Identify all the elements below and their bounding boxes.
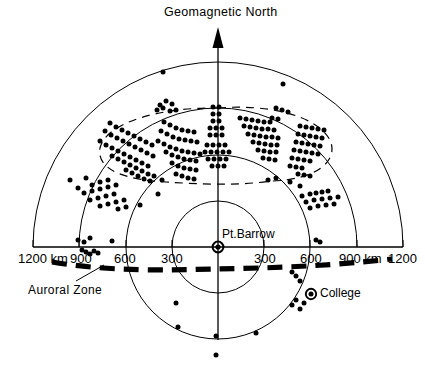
echo-point	[210, 164, 215, 169]
echo-point	[132, 134, 137, 139]
echo-point	[268, 150, 273, 155]
echo-point	[215, 150, 220, 155]
axis-tick-label-left: 1200 km	[18, 251, 68, 266]
echo-point	[116, 207, 121, 212]
echo-point	[171, 135, 176, 140]
echo-point	[332, 202, 337, 207]
echo-point	[122, 160, 127, 165]
echo-point	[292, 148, 297, 153]
echo-point	[274, 150, 279, 155]
echo-point	[120, 128, 125, 133]
echo-point	[142, 177, 147, 182]
echo-point	[170, 153, 175, 158]
echo-point	[266, 127, 271, 132]
echo-point	[256, 148, 261, 153]
echo-point	[275, 143, 280, 148]
echo-point	[312, 143, 317, 148]
echo-point	[298, 124, 303, 129]
echo-point	[294, 298, 299, 303]
echo-point	[251, 140, 256, 145]
echo-point	[320, 136, 325, 141]
echo-point	[182, 166, 187, 171]
echo-point	[121, 139, 126, 144]
echo-point	[88, 198, 93, 203]
station-marker-college	[306, 289, 316, 299]
echo-point	[156, 139, 161, 144]
echo-point	[138, 137, 143, 142]
echo-point	[106, 178, 111, 183]
echo-point	[188, 167, 193, 172]
echo-point	[318, 240, 323, 245]
echo-point	[298, 149, 303, 154]
echo-point	[220, 133, 225, 138]
echo-point	[216, 164, 221, 169]
echo-point	[294, 140, 299, 145]
echo-point	[159, 129, 164, 134]
echo-point	[211, 105, 216, 110]
echo-point	[276, 136, 281, 141]
echo-point	[176, 325, 181, 330]
echo-point	[290, 270, 295, 275]
echo-point	[112, 192, 117, 197]
echo-point	[189, 139, 194, 144]
echo-point	[192, 130, 197, 135]
echo-point	[144, 140, 149, 145]
echo-points-group	[68, 70, 341, 358]
echo-point	[314, 135, 319, 140]
echo-point	[103, 129, 108, 134]
echo-point	[308, 159, 313, 164]
axis-tick-label-right: 300	[254, 251, 276, 266]
echo-point	[308, 206, 313, 211]
echo-point	[170, 161, 175, 166]
chart-title: Geomagnetic North	[164, 5, 278, 19]
echo-point	[324, 203, 329, 208]
echo-point	[134, 158, 139, 163]
echo-point	[124, 168, 129, 173]
echo-point	[122, 152, 127, 157]
echo-point	[310, 151, 315, 156]
echo-point	[98, 139, 103, 144]
echo-point	[269, 143, 274, 148]
echo-point	[306, 142, 311, 147]
echo-point	[110, 239, 115, 244]
echo-point	[176, 155, 181, 160]
echo-point	[122, 198, 127, 203]
echo-point	[164, 99, 169, 104]
echo-point	[316, 127, 321, 132]
echo-point	[174, 172, 179, 177]
echo-point	[168, 123, 173, 128]
echo-point	[162, 142, 167, 147]
echo-point	[290, 303, 295, 308]
echo-point	[140, 169, 145, 174]
echo-point	[110, 154, 115, 159]
echo-point	[98, 180, 103, 185]
echo-point	[258, 134, 263, 139]
echo-point	[257, 141, 262, 146]
echo-point	[76, 238, 81, 243]
echo-point	[276, 117, 281, 122]
echo-point	[246, 132, 251, 137]
echo-point	[174, 126, 179, 131]
echo-point	[76, 186, 81, 191]
echo-point	[238, 116, 243, 121]
echo-point	[198, 152, 203, 157]
echo-point	[318, 144, 323, 149]
auroral-zone-label: Auroral Zone	[28, 283, 102, 297]
echo-point	[188, 158, 193, 163]
axis-tick-label-right: 900 km	[339, 251, 382, 266]
echo-point	[203, 150, 208, 155]
echo-point	[254, 331, 259, 336]
echo-point	[223, 143, 228, 148]
echo-point	[140, 161, 145, 166]
echo-point	[274, 176, 279, 181]
echo-point	[320, 197, 325, 202]
echo-point	[298, 184, 303, 189]
echo-point	[266, 178, 271, 183]
figure-root: Geomagnetic North Pt.Barrow College Auro…	[0, 0, 425, 383]
echo-point	[256, 119, 261, 124]
echo-point	[208, 126, 213, 131]
echo-point	[138, 203, 143, 208]
echo-point	[186, 176, 191, 181]
echo-point	[177, 137, 182, 142]
echo-point	[126, 131, 131, 136]
